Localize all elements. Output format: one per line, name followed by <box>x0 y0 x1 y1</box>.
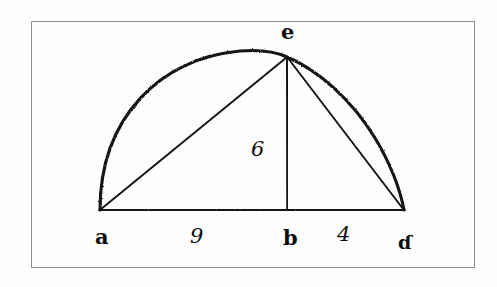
measure-label-ab: 9 <box>190 226 203 247</box>
base-line-segment <box>100 210 404 211</box>
measure-label-eb: 6 <box>251 139 264 160</box>
semicircle-arc <box>100 50 404 210</box>
vertex-label-d: ɗ <box>398 233 412 252</box>
measure-label-bd: 4 <box>337 224 350 245</box>
figure-root: e a b ɗ 9 4 6 <box>0 0 497 287</box>
vertex-label-b: b <box>283 227 298 248</box>
chord-a-e <box>101 58 287 210</box>
vertex-label-e: e <box>281 21 294 42</box>
chord-e-d <box>288 58 404 210</box>
geometry-drawing <box>0 0 497 287</box>
vertex-label-a: a <box>95 226 109 247</box>
